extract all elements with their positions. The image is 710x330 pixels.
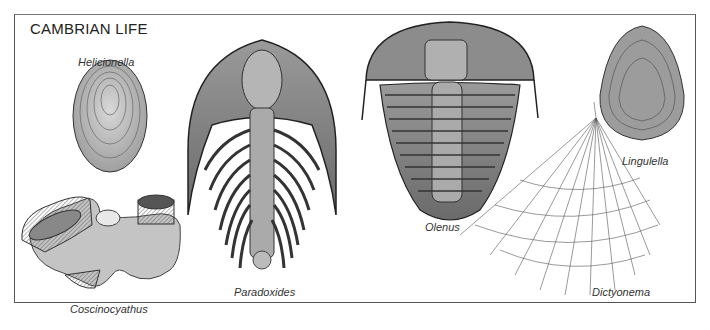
lingulella-shell [600, 26, 684, 140]
paradoxides-trilobite [188, 40, 336, 269]
label-coscinocyathus: Coscinocyathus [70, 303, 148, 315]
coscinocyathus-fossil [22, 195, 180, 288]
label-olenus: Olenus [425, 221, 460, 233]
illustration-canvas [0, 0, 710, 330]
label-dictyonema: Dictyonema [592, 286, 650, 298]
label-lingulella: Lingulella [622, 155, 668, 167]
label-helicionella: Helicionella [78, 56, 134, 68]
label-paradoxides: Paradoxides [234, 286, 295, 298]
helicionella-shell [73, 60, 147, 172]
